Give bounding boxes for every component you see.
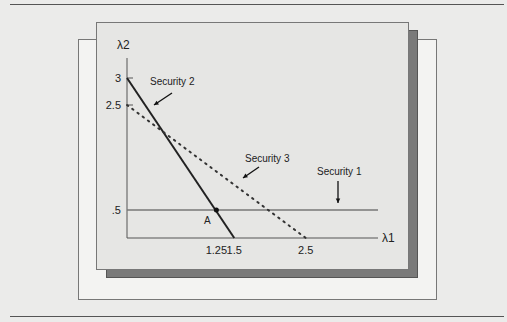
chart: 32.5.51.251.52.5 λ2 λ1 Security 2 Securi… [0, 0, 507, 322]
security-3-line [127, 105, 306, 238]
x-axis-label: λ1 [382, 231, 395, 245]
y-tick-label: .5 [112, 204, 121, 216]
security-1-arrow-head [336, 199, 341, 203]
security-2-line [127, 78, 234, 238]
point-a [214, 208, 219, 213]
annotation-security-1: Security 1 [317, 166, 362, 177]
y-axis-label: λ2 [117, 38, 130, 52]
annotation-security-3: Security 3 [245, 153, 290, 164]
x-tick-label: 2.5 [298, 244, 313, 256]
x-tick-label: 1.5 [227, 244, 242, 256]
point-a-label: A [204, 215, 211, 226]
x-tick-label: 1.25 [206, 244, 227, 256]
y-tick-label: 2.5 [106, 99, 121, 111]
y-tick-label: 3 [115, 72, 121, 84]
annotation-security-2: Security 2 [150, 76, 195, 87]
